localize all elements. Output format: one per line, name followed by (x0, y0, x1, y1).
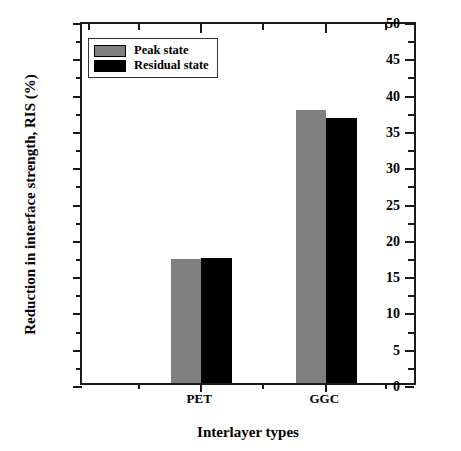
y-axis-tick-label: 10 (360, 307, 400, 321)
x-axis-title: Interlayer types (80, 424, 416, 441)
y-axis-tick-minor (76, 223, 82, 225)
y-axis-tick-major-right (405, 350, 414, 352)
legend-label-residual-state: Residual state (134, 59, 209, 72)
y-axis-tick-major (73, 23, 82, 25)
x-axis-tick-minor-top (414, 24, 416, 30)
y-axis-tick-minor-right (408, 186, 414, 188)
y-axis-tick-major (73, 96, 82, 98)
y-axis-tick-minor-right (408, 114, 414, 116)
peak-state-swatch (94, 45, 126, 57)
y-axis-tick-major-right (405, 205, 414, 207)
x-axis-tick-major-top (325, 24, 327, 33)
y-axis-tick-minor-right (408, 259, 414, 261)
x-axis-tick-minor (385, 383, 387, 389)
y-axis-tick-major-right (405, 59, 414, 61)
legend-entry-peak-state: Peak state (94, 43, 211, 58)
y-axis-tick-minor (76, 332, 82, 334)
y-axis-tick-minor-right (408, 332, 414, 334)
y-axis-tick-major (73, 277, 82, 279)
y-axis-tick-minor-right (408, 41, 414, 43)
y-axis-tick-major-right (405, 277, 414, 279)
y-axis-tick-major-right (405, 241, 414, 243)
bar-pet-residual-state (201, 258, 232, 383)
y-axis-tick-major (73, 59, 82, 61)
y-axis-tick-major-right (405, 168, 414, 170)
y-axis-tick-label: 20 (360, 235, 400, 249)
y-axis-tick-major (73, 168, 82, 170)
legend-label-peak-state: Peak state (134, 44, 189, 57)
y-axis-tick-major (73, 205, 82, 207)
y-axis-tick-major (73, 241, 82, 243)
x-axis-tick-minor-top (88, 24, 90, 30)
x-axis-tick-minor (262, 383, 264, 389)
x-axis-tick-label-ggc: GGC (279, 392, 369, 405)
y-axis-tick-minor (76, 186, 82, 188)
y-axis-tick-label: 50 (360, 17, 400, 31)
y-axis-tick-label: 5 (360, 344, 400, 358)
y-axis-tick-label: 30 (360, 162, 400, 176)
y-axis-tick-label: 45 (360, 53, 400, 67)
y-axis-tick-minor-right (408, 150, 414, 152)
y-axis-tick-label: 15 (360, 271, 400, 285)
y-axis-tick-minor-right (408, 77, 414, 79)
y-axis-title: Reduction in interface strength, RIS (%) (22, 25, 39, 385)
y-axis-tick-major-right (405, 313, 414, 315)
residual-state-swatch (94, 60, 126, 72)
x-axis-tick-minor-top (385, 24, 387, 30)
x-axis-tick-minor (138, 383, 140, 389)
x-axis-tick-minor-top (138, 24, 140, 30)
y-axis-tick-label: 35 (360, 126, 400, 140)
chart-legend: Peak state Residual state (88, 38, 218, 78)
y-axis-tick-major (73, 386, 82, 388)
legend-entry-residual-state: Residual state (94, 58, 211, 73)
x-axis-tick-minor-top (262, 24, 264, 30)
y-axis-tick-major (73, 132, 82, 134)
y-axis-tick-minor (76, 114, 82, 116)
y-axis-tick-label: 25 (360, 199, 400, 213)
y-axis-tick-minor (76, 41, 82, 43)
chart-figure: Reduction in interface strength, RIS (%)… (0, 0, 461, 451)
y-axis-tick-label: 40 (360, 90, 400, 104)
y-axis-tick-minor (76, 368, 82, 370)
bar-ggc-residual-state (326, 118, 357, 383)
y-axis-tick-major-right (405, 96, 414, 98)
y-axis-tick-minor (76, 259, 82, 261)
bar-ggc-peak-state (296, 110, 327, 383)
x-axis-tick-label-pet: PET (154, 392, 244, 405)
y-axis-tick-minor-right (408, 223, 414, 225)
bar-pet-peak-state (171, 259, 202, 383)
y-axis-tick-minor (76, 77, 82, 79)
y-axis-tick-minor-right (408, 295, 414, 297)
y-axis-tick-major-right (405, 132, 414, 134)
y-axis-tick-minor-right (408, 368, 414, 370)
x-axis-tick-major-top (200, 24, 202, 33)
y-axis-tick-minor (76, 150, 82, 152)
y-axis-tick-major-right (405, 386, 414, 388)
y-axis-tick-minor (76, 295, 82, 297)
y-axis-tick-major (73, 313, 82, 315)
y-axis-tick-major (73, 350, 82, 352)
